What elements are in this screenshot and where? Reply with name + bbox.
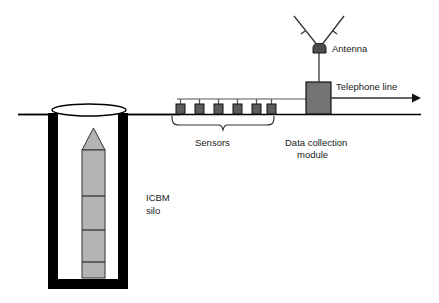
telephone-line-group	[331, 94, 421, 103]
antenna-arm-left	[294, 16, 318, 46]
icbm-silo-diagram: Antenna Telephone line Sensors Data coll…	[0, 0, 439, 303]
data-collection-module-label-line1: Data collection	[285, 137, 347, 148]
sensor-box	[252, 104, 261, 114]
diagram-canvas: Antenna Telephone line Sensors Data coll…	[0, 0, 439, 303]
sensors-brace	[172, 116, 274, 130]
antenna-arm-right	[321, 16, 344, 46]
antenna-arm-left-tick-icon	[301, 31, 305, 34]
sensor-box	[214, 104, 223, 114]
data-collection-module-label-line2: module	[297, 149, 328, 160]
sensor-box	[233, 104, 242, 114]
sensors-label: Sensors	[195, 137, 230, 148]
sensor-box	[267, 104, 276, 114]
antenna-label: Antenna	[332, 43, 368, 54]
missile-body	[82, 150, 105, 278]
telephone-line-label: Telephone line	[336, 81, 397, 92]
data-collection-module-group	[306, 82, 331, 114]
sensor-box	[176, 104, 185, 114]
icbm-missile-group	[82, 128, 105, 278]
telephone-line-arrow-icon	[412, 94, 421, 103]
antenna-arm-right-tick-icon	[333, 31, 337, 34]
icbm-silo-label-line1: ICBM	[146, 192, 170, 203]
antenna-element	[313, 44, 326, 54]
data-collection-module	[306, 82, 331, 114]
icbm-silo-label-line2: silo	[146, 205, 160, 216]
sensor-box	[195, 104, 204, 114]
silo-cap	[52, 104, 126, 116]
